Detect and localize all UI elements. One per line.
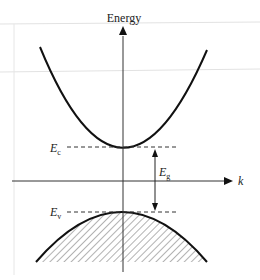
valence-edge-label: Ev [49, 205, 61, 221]
band-gap-arrow [152, 149, 158, 211]
gap-arrow-down-icon [152, 203, 158, 211]
gap-arrow-up-icon [152, 149, 158, 157]
k-axis-label: k [238, 174, 244, 188]
conduction-edge-label: Ec [49, 141, 61, 157]
band-gap-label: Eg [158, 165, 170, 181]
k-axis-arrowhead-icon [224, 177, 233, 185]
energy-axis-arrowhead-icon [119, 26, 127, 35]
band-diagram: Energy k Ec Ev Eg [0, 0, 260, 280]
energy-axis-label: Energy [107, 11, 141, 25]
